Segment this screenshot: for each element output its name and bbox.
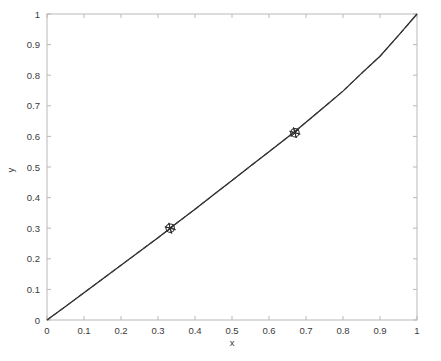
data-line-dashed-curve: [47, 14, 417, 320]
x-tick-label: 0: [44, 325, 49, 336]
figure-canvas: 00.10.20.30.40.50.60.70.80.91 00.10.20.3…: [0, 0, 441, 361]
y-tick-label: 0.4: [27, 192, 40, 203]
data-series-group: [47, 14, 417, 320]
x-tick-label: 0.2: [114, 325, 127, 336]
y-tick-label: 0.3: [27, 223, 40, 234]
x-tick-label: 0.9: [373, 325, 386, 336]
marker-point-2: [290, 127, 301, 138]
y-tick-label: 0.7: [27, 100, 40, 111]
x-tick-label: 0.1: [77, 325, 90, 336]
marker-point-1: [165, 223, 176, 234]
y-axis-title: y: [5, 167, 16, 172]
y-tick-label: 0.1: [27, 284, 40, 295]
chart-plot-area: 00.10.20.30.40.50.60.70.80.91 00.10.20.3…: [0, 0, 441, 361]
y-tick-label: 0.6: [27, 131, 40, 142]
x-tick-label: 0.8: [336, 325, 349, 336]
y-tick-label: 0.9: [27, 39, 40, 50]
y-tick-label: 0: [35, 315, 40, 326]
y-tick-label: 0.2: [27, 253, 40, 264]
x-tick-label: 0.4: [188, 325, 201, 336]
tick-marks: [47, 14, 417, 320]
x-tick-label: 0.6: [262, 325, 275, 336]
x-axis-title: x: [230, 337, 235, 348]
y-tick-label: 0.8: [27, 70, 40, 81]
x-tick-label: 0.3: [151, 325, 164, 336]
axis-frame: [47, 14, 417, 320]
x-tick-label: 0.5: [225, 325, 238, 336]
x-tick-label: 1: [414, 325, 419, 336]
x-tick-label: 0.7: [299, 325, 312, 336]
axis-box: [47, 14, 417, 320]
y-tick-label: 1: [35, 9, 40, 20]
data-line-solid-curve: [47, 14, 417, 320]
y-tick-label: 0.5: [27, 162, 40, 173]
y-tick-labels: 00.10.20.30.40.50.60.70.80.91: [27, 9, 40, 326]
x-tick-labels: 00.10.20.30.40.50.60.70.80.91: [44, 325, 419, 336]
